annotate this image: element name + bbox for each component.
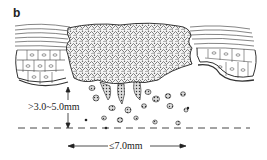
- tissue-cross-section-diagram: [0, 0, 267, 160]
- invading-tumor-nests: [89, 82, 188, 125]
- right-epithelium: [190, 26, 256, 81]
- depth-measurement-label: >3.0~5.0mm: [28, 101, 80, 112]
- width-measurement-label: ≤7.0mm: [108, 140, 144, 151]
- tumor-mass: [66, 23, 192, 83]
- left-epithelium: [15, 24, 70, 85]
- panel-label: b: [13, 6, 20, 20]
